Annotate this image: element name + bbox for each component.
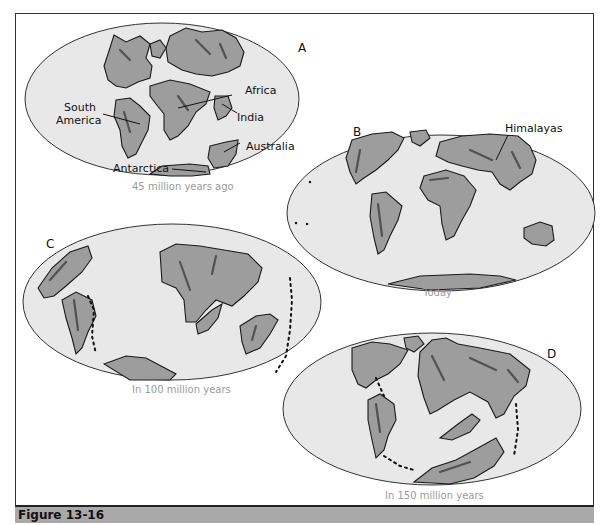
map-b-today: B Himalayas Today bbox=[287, 122, 595, 298]
map-b-island bbox=[295, 222, 297, 224]
map-d-150-million-years: D In 150 million years bbox=[283, 333, 581, 501]
map-b-label-himalayas: Himalayas bbox=[505, 122, 563, 135]
map-b-letter: B bbox=[353, 125, 361, 139]
map-b-island bbox=[306, 223, 308, 225]
map-c-100-million-years: C In 100 million years bbox=[23, 224, 321, 395]
map-d-subtitle: In 150 million years bbox=[385, 490, 484, 501]
map-a-label-america: America bbox=[56, 114, 101, 127]
map-a-label-africa: Africa bbox=[245, 84, 276, 97]
figure-caption-bar: Figure 13-16 bbox=[15, 507, 594, 523]
map-c-letter: C bbox=[46, 237, 54, 251]
map-b-subtitle: Today bbox=[422, 287, 452, 298]
map-a-45-million-years-ago: A South America Africa India Australia A… bbox=[25, 23, 307, 192]
map-a-label-south: South bbox=[64, 101, 96, 114]
figure-caption: Figure 13-16 bbox=[18, 507, 104, 523]
map-d-letter: D bbox=[547, 347, 556, 361]
map-a-subtitle: 45 million years ago bbox=[132, 181, 234, 192]
map-b-island bbox=[309, 181, 311, 183]
continental-drift-maps: A South America Africa India Australia A… bbox=[0, 0, 607, 525]
map-a-label-australia: Australia bbox=[246, 140, 295, 153]
map-c-subtitle: In 100 million years bbox=[132, 384, 231, 395]
map-a-letter: A bbox=[298, 41, 307, 55]
map-a-label-antarctica: Antarctica bbox=[113, 162, 169, 175]
map-a-label-india: India bbox=[237, 111, 264, 124]
map-a-north-america bbox=[104, 35, 152, 88]
